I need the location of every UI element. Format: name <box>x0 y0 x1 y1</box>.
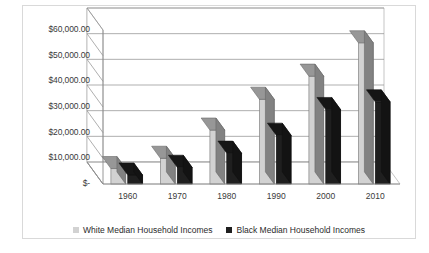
legend-label-black: Black Median Household Incomes <box>236 226 365 235</box>
x-axis-tick-label: 2000 <box>306 192 346 201</box>
x-axis-tick-label: 1980 <box>207 192 247 201</box>
x-axis-tick-label: 1960 <box>108 192 148 201</box>
x-axis-tick-label: 2010 <box>355 192 395 201</box>
legend-label-white: White Median Household Incomes <box>83 226 212 235</box>
legend-swatch-white-icon <box>73 227 79 233</box>
x-axis-tick-label: 1970 <box>157 192 197 201</box>
chart-legend: White Median Household Incomes Black Med… <box>22 222 416 238</box>
legend-swatch-black-icon <box>226 227 232 233</box>
chart-container: $-$10,000.00$20,000.00$30,000.00$40,000.… <box>0 0 429 253</box>
legend-item-black: Black Median Household Incomes <box>226 226 365 235</box>
legend-item-white: White Median Household Incomes <box>73 226 212 235</box>
x-axis-labels: 196019701980199020002010 <box>0 0 429 253</box>
x-axis-tick-label: 1990 <box>256 192 296 201</box>
